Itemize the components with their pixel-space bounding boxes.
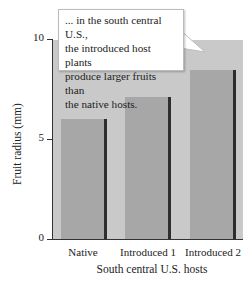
y-axis-line bbox=[52, 39, 53, 240]
x-category-introduced-2: Introduced 2 bbox=[173, 246, 252, 258]
callout-line-4: the native hosts. bbox=[65, 97, 177, 111]
bar-native bbox=[61, 119, 107, 239]
callout-tail-icon bbox=[180, 28, 210, 58]
bar-introduced-1 bbox=[125, 97, 171, 239]
callout-line-3: produce larger fruits than bbox=[65, 69, 177, 97]
x-axis-line bbox=[52, 239, 243, 240]
y-tick-5 bbox=[47, 139, 52, 140]
callout-line-1: ... in the south central U.S., bbox=[65, 13, 177, 41]
x-axis-title: South central U.S. hosts bbox=[52, 263, 252, 275]
y-tick-label-0: 0 bbox=[30, 231, 44, 243]
y-tick-label-10: 10 bbox=[30, 31, 44, 43]
y-axis-title: Fruit radius (mm) bbox=[11, 84, 23, 204]
y-tick-10 bbox=[47, 39, 52, 40]
callout-line-2: the introduced host plants bbox=[65, 41, 177, 69]
annotation-callout: ... in the south central U.S., the intro… bbox=[58, 9, 184, 71]
y-tick-0 bbox=[47, 239, 52, 240]
bar-introduced-2 bbox=[190, 70, 236, 239]
y-tick-label-5: 5 bbox=[30, 131, 44, 143]
